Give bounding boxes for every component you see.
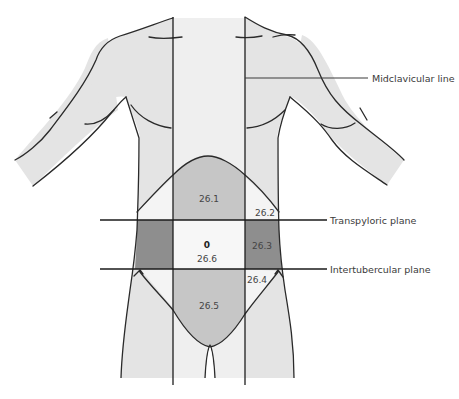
- midclavicular-line-label: Midclavicular line: [372, 73, 455, 84]
- bottom-cutoff: [0, 378, 459, 399]
- right-elbow-mark: [360, 108, 367, 120]
- label-26-3: 26.3: [252, 241, 272, 251]
- label-26-4: 26.4: [247, 275, 267, 285]
- label-26-6: 26.6: [197, 254, 217, 264]
- label-26-5: 26.5: [199, 301, 219, 311]
- label-26-2: 26.2: [255, 208, 275, 218]
- region-right-lumbar: [135, 220, 173, 269]
- label-0: 0: [204, 240, 210, 250]
- intertubercular-plane-label: Intertubercular plane: [330, 264, 431, 275]
- transpyloric-plane-label: Transpyloric plane: [329, 215, 417, 226]
- abdominal-regions-diagram: 26.1 26.2 26.3 0 26.6 26.4 26.5 Midclavi…: [0, 0, 459, 399]
- label-26-1: 26.1: [199, 194, 219, 204]
